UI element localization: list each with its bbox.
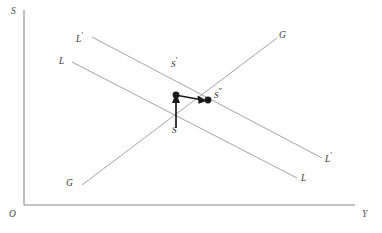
point-label-s-double-prime-mark: ″ xyxy=(219,87,223,96)
curve-ll xyxy=(72,62,297,178)
origin-label: O xyxy=(9,210,16,220)
point-label-s-prime: S′ xyxy=(171,57,178,69)
curve-gg-label-right-text: G xyxy=(279,30,286,40)
point-dot-s-double-prime xyxy=(205,97,212,104)
curve-ll-label-right-text: L xyxy=(301,173,306,183)
curve-gg-label-right: G xyxy=(279,31,286,41)
diagram-canvas xyxy=(0,0,382,233)
curve-l-prime-label-right: L′ xyxy=(325,152,333,165)
point-label-s-text: S xyxy=(172,125,177,135)
curve-ll-label-right: L xyxy=(301,174,306,184)
curve-l-prime-label-right-prime: ′ xyxy=(330,151,332,160)
horizontal-axis-label: Y xyxy=(362,210,367,220)
arrow-s-prime-to-s-dprime-shaft xyxy=(178,96,200,100)
point-label-s: S xyxy=(172,126,177,135)
horizontal-axis-label-text: Y xyxy=(362,209,367,219)
vertical-axis-label-text: S xyxy=(11,6,16,16)
curve-gg xyxy=(82,38,277,185)
vertical-axis-label: S xyxy=(11,7,16,17)
point-dot-s-prime xyxy=(173,92,180,99)
curve-gg-label-left-text: G xyxy=(66,178,73,188)
curve-ll-label-left: L xyxy=(59,57,64,67)
curve-l-prime-label-left-prime: ′ xyxy=(81,31,83,40)
economics-diagram-figure: S Y O L L L′ L′ G G S S′ S″ xyxy=(0,0,382,233)
curve-gg-label-left: G xyxy=(66,179,73,189)
origin-label-text: O xyxy=(9,209,16,219)
point-label-s-double-prime: S″ xyxy=(214,88,223,100)
curve-ll-label-left-text: L xyxy=(59,56,64,66)
point-label-s-prime-mark: ′ xyxy=(176,56,178,65)
curve-l-prime-label-left: L′ xyxy=(76,32,84,45)
